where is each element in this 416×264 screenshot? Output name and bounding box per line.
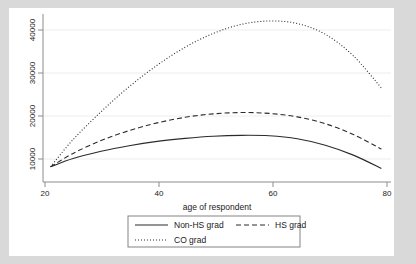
x-tick-label-20: 20: [41, 189, 50, 198]
legend-label-co-grad: CO grad: [174, 235, 206, 245]
legend-entry-hs-grad: HS grad: [236, 220, 306, 230]
x-axis-title: age of respondent: [183, 202, 252, 212]
x-tick-label-40: 40: [155, 189, 164, 198]
y-tick-label-10000: 10000: [28, 147, 37, 170]
legend-entry-non-hs-grad: Non-HS grad: [135, 220, 224, 230]
legend-label-non-hs-grad: Non-HS grad: [174, 220, 224, 230]
legend-entry-co-grad: CO grad: [135, 235, 206, 245]
plot-area-background: [43, 14, 391, 182]
x-tick-label-80: 80: [383, 189, 392, 198]
chart-panel: 40000 30000 20000 10000 20 40 60 80 age …: [9, 8, 394, 256]
chart-figure: 40000 30000 20000 10000 20 40 60 80 age …: [0, 0, 416, 264]
y-tick-label-20000: 20000: [28, 104, 37, 127]
x-tick-label-60: 60: [269, 189, 278, 198]
y-tick-label-30000: 30000: [28, 61, 37, 84]
legend-label-hs-grad: HS grad: [275, 220, 306, 230]
line-chart-svg: 40000 30000 20000 10000 20 40 60 80 age …: [9, 8, 394, 256]
y-tick-label-40000: 40000: [28, 18, 37, 41]
